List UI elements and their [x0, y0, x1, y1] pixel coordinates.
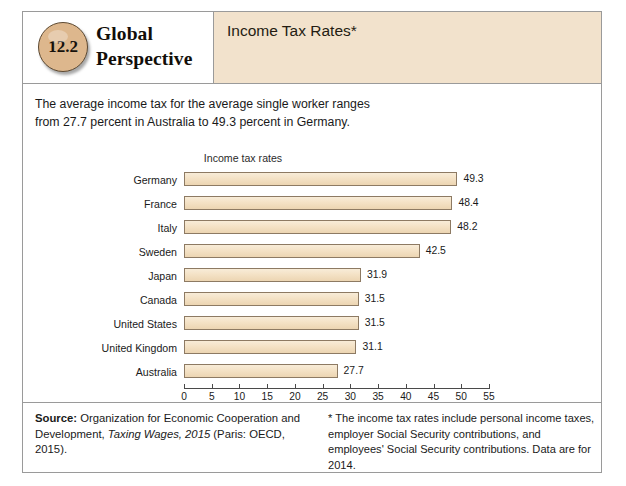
- x-axis-tick: [378, 384, 379, 389]
- bar-track: 48.2: [184, 216, 601, 239]
- x-axis-tick-label: 0: [181, 391, 187, 402]
- bar: [184, 292, 359, 306]
- bar: [184, 196, 452, 210]
- footnote-text: * The income tax rates include personal …: [328, 411, 596, 473]
- brand-line-2: Perspective: [96, 46, 192, 71]
- category-label: Sweden: [23, 246, 184, 258]
- x-axis-tick: [212, 384, 213, 389]
- bar: [184, 244, 420, 258]
- x-axis-line: [184, 388, 489, 389]
- bar-value-label: 27.7: [344, 365, 364, 376]
- income-tax-bar-chart: Income tax rates Germany49.3France48.4It…: [23, 152, 601, 397]
- x-axis-tick-label: 20: [289, 391, 300, 402]
- chart-plot-area: Germany49.3France48.4Italy48.2Sweden42.5…: [23, 168, 601, 384]
- category-label: Japan: [23, 270, 184, 282]
- x-axis-tick: [461, 384, 462, 389]
- brand-line-1: Global: [96, 21, 192, 46]
- x-axis-tick-label: 30: [345, 391, 356, 402]
- bar-track: 27.7: [184, 360, 601, 383]
- chart-row: Australia27.7: [23, 360, 601, 383]
- x-axis-tick-label: 50: [456, 391, 467, 402]
- x-axis-tick: [323, 384, 324, 389]
- bar: [184, 364, 338, 378]
- category-label: France: [23, 198, 184, 210]
- brand-title: Global Perspective: [96, 21, 192, 71]
- bar: [184, 316, 359, 330]
- source-italic-title: Taxing Wages, 2015: [108, 428, 210, 440]
- bar-value-label: 31.9: [367, 269, 387, 280]
- intro-paragraph: The average income tax for the average s…: [35, 96, 375, 131]
- bar-track: 31.5: [184, 288, 601, 311]
- bar: [184, 340, 356, 354]
- bar-track: 48.4: [184, 192, 601, 215]
- bar-value-label: 31.5: [365, 293, 385, 304]
- chart-row: Canada31.5: [23, 288, 601, 311]
- x-axis-tick: [267, 384, 268, 389]
- chart-row: United Kingdom31.1: [23, 336, 601, 359]
- x-axis-tick-label: 25: [317, 391, 328, 402]
- bar-track: 31.9: [184, 264, 601, 287]
- chart-row: United States31.5: [23, 312, 601, 335]
- figure-title: Income Tax Rates*: [227, 22, 357, 40]
- x-axis-tick-label: 35: [372, 391, 383, 402]
- x-axis-tick: [295, 384, 296, 389]
- bar-value-label: 42.5: [426, 245, 446, 256]
- x-axis-tick: [406, 384, 407, 389]
- x-axis-tick-label: 10: [234, 391, 245, 402]
- figure-brand-block: 12.2 Global Perspective: [23, 12, 214, 83]
- bar-track: 49.3: [184, 168, 601, 191]
- figure-body: The average income tax for the average s…: [23, 84, 601, 402]
- category-label: Australia: [23, 366, 184, 378]
- chart-row: Italy48.2: [23, 216, 601, 239]
- bar-value-label: 48.2: [457, 221, 477, 232]
- badge-highlight: [48, 30, 68, 43]
- figure-header: 12.2 Global Perspective Income Tax Rates…: [23, 12, 601, 84]
- bar: [184, 220, 451, 234]
- x-axis-tick-label: 5: [209, 391, 215, 402]
- x-axis-tick: [184, 384, 185, 389]
- x-axis-tick: [239, 384, 240, 389]
- category-label: United States: [23, 318, 184, 330]
- bar: [184, 268, 361, 282]
- category-label: Canada: [23, 294, 184, 306]
- bar-value-label: 31.1: [362, 341, 382, 352]
- chart-row: Sweden42.5: [23, 240, 601, 263]
- figure-title-block: Income Tax Rates*: [214, 12, 601, 83]
- global-perspective-figure: 12.2 Global Perspective Income Tax Rates…: [22, 11, 602, 473]
- figure-footer: Source: Organization for Economic Cooper…: [23, 402, 601, 472]
- x-axis-tick: [489, 384, 490, 389]
- bar-track: 31.5: [184, 312, 601, 335]
- category-label: United Kingdom: [23, 342, 184, 354]
- x-axis-tick-label: 15: [262, 391, 273, 402]
- bar: [184, 172, 457, 186]
- figure-number-badge: 12.2: [38, 22, 88, 72]
- chart-row: France48.4: [23, 192, 601, 215]
- bar-track: 31.1: [184, 336, 601, 359]
- x-axis-tick: [350, 384, 351, 389]
- bar-value-label: 49.3: [463, 173, 483, 184]
- bar-value-label: 48.4: [458, 197, 478, 208]
- chart-row: Japan31.9: [23, 264, 601, 287]
- x-axis-tick-label: 40: [400, 391, 411, 402]
- bar-value-label: 31.5: [365, 317, 385, 328]
- category-label: Italy: [23, 222, 184, 234]
- chart-caption: Income tax rates: [23, 152, 463, 164]
- x-axis-tick-label: 55: [483, 391, 494, 402]
- chart-row: Germany49.3: [23, 168, 601, 191]
- bar-track: 42.5: [184, 240, 601, 263]
- x-axis-tick-label: 45: [428, 391, 439, 402]
- source-label: Source:: [35, 412, 77, 424]
- x-axis-tick: [434, 384, 435, 389]
- source-note: Source: Organization for Economic Cooper…: [35, 411, 320, 458]
- category-label: Germany: [23, 174, 184, 186]
